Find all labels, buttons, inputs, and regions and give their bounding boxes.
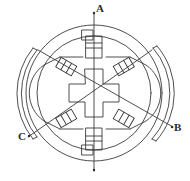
left-housing-arc-segment-outer bbox=[17, 48, 33, 139]
axis-label-b: B bbox=[174, 122, 181, 133]
axis-label-c: C bbox=[18, 131, 26, 142]
machine-cross-section-diagram bbox=[0, 0, 190, 181]
axis-a-marker-dot bbox=[93, 12, 95, 14]
coil-lower-left-turn-1 bbox=[61, 115, 67, 125]
left-arc-cap-top bbox=[33, 48, 37, 50]
coil-lower-left-turn-2 bbox=[66, 112, 72, 122]
coil-lower-right-turn-1 bbox=[118, 112, 124, 122]
axis-label-a: A bbox=[96, 3, 104, 14]
axis-a-bottom-dot bbox=[93, 169, 95, 171]
coil-lower-right-turn-2 bbox=[124, 115, 130, 125]
coil-lower-left bbox=[56, 109, 77, 128]
coil-top-tab bbox=[82, 30, 93, 40]
coil-upper-right bbox=[113, 57, 134, 76]
figure-canvas: A B C bbox=[0, 0, 190, 181]
coil-lower-right bbox=[113, 109, 134, 128]
axis-b-marker-dot bbox=[171, 126, 173, 128]
coil-upper-left-turn-1 bbox=[61, 60, 67, 70]
right-arc-cap-bottom bbox=[152, 139, 156, 141]
coil-upper-left-turn-2 bbox=[66, 63, 72, 73]
right-arc-cap-top bbox=[153, 46, 157, 48]
left-arc-cap-bottom bbox=[33, 137, 37, 139]
